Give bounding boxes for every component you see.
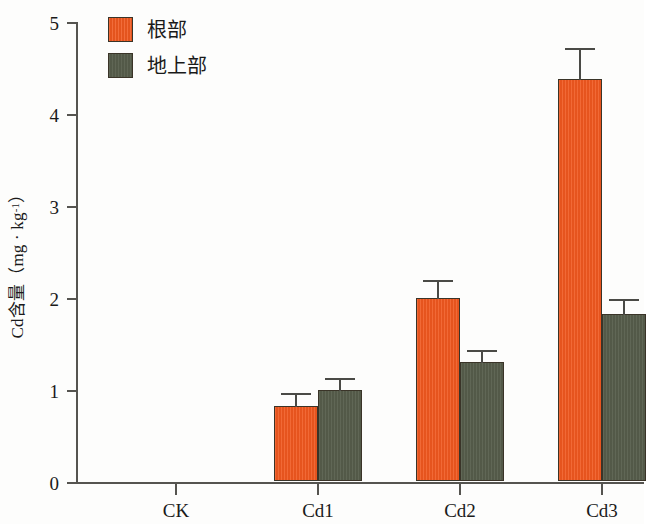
bar-cd3-root (558, 79, 602, 481)
y-axis-tick: 5 (67, 22, 76, 24)
y-axis-title-suffix: ） (3, 186, 28, 203)
error-bar-cap (423, 280, 453, 282)
bar-cd2-root (416, 298, 460, 481)
error-bar-cap (281, 393, 311, 395)
bar-cd1-root (274, 406, 318, 481)
y-axis-line (76, 22, 78, 484)
y-axis-tick-label: 5 (50, 14, 60, 33)
error-bar-line (579, 48, 581, 80)
x-axis-tick-label: Cd1 (302, 501, 334, 520)
y-axis-tick: 2 (67, 298, 76, 300)
legend-swatch-shoot-icon (108, 53, 133, 78)
legend-label-root: 根部 (147, 20, 187, 40)
error-bar-line (295, 393, 297, 408)
y-axis-title-prefix: Cd含量（mg · kg (3, 212, 28, 338)
y-axis-tick: 4 (67, 114, 76, 116)
y-axis-tick: 0 (67, 482, 76, 484)
legend-swatch-root-icon (108, 17, 133, 42)
x-axis-tick-label: CK (163, 501, 189, 520)
y-axis-tick-label: 1 (50, 382, 60, 401)
y-axis-tick-label: 4 (50, 106, 60, 125)
error-bar-line (437, 280, 439, 299)
bar-cd2-shoot (460, 362, 504, 481)
legend-item-shoot: 地上部 (108, 50, 207, 81)
error-bar-cap (325, 378, 355, 380)
bar-cd1-shoot (318, 390, 362, 481)
bar-cd3-shoot (602, 314, 646, 481)
x-axis-tick (317, 484, 319, 495)
y-axis-tick: 1 (67, 390, 76, 392)
error-bar-line (481, 350, 483, 364)
error-bar-cap (609, 299, 639, 301)
y-axis-tick-label: 3 (50, 198, 60, 217)
x-axis-tick (601, 484, 603, 495)
legend-item-root: 根部 (108, 14, 207, 45)
y-axis-tick: 3 (67, 206, 76, 208)
error-bar-line (623, 299, 625, 316)
x-axis-tick (175, 484, 177, 495)
plot-area: 012345 CKCd1Cd2Cd3 (76, 22, 644, 483)
x-axis-tick (459, 484, 461, 495)
error-bar-cap (467, 350, 497, 352)
legend-label-shoot: 地上部 (147, 56, 207, 76)
error-bar-cap (565, 48, 595, 50)
y-axis-tick-label: 2 (50, 290, 60, 309)
legend: 根部 地上部 (108, 14, 207, 86)
x-axis-line (76, 482, 644, 484)
y-axis-title: Cd含量（mg · kg-1） (0, 0, 30, 524)
y-axis-tick-label: 0 (50, 474, 60, 493)
x-axis-tick-label: Cd3 (586, 501, 618, 520)
x-axis-tick-label: Cd2 (444, 501, 476, 520)
